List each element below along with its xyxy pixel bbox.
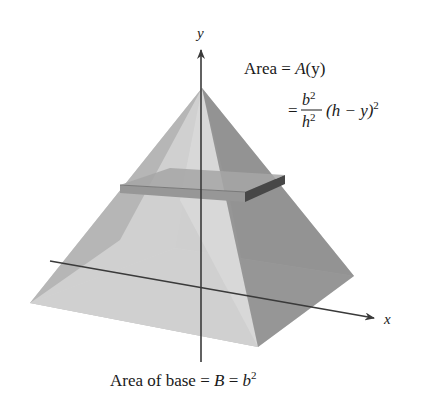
area-formula: = b2 h2 (h − y)2 <box>288 89 379 130</box>
svg-text:b2: b2 <box>302 89 316 108</box>
y-axis-label: y <box>195 25 204 41</box>
pyramid-diagram: y x Area = A(y) = b2 h2 (h − y)2 Area of… <box>0 0 424 406</box>
svg-text:h2: h2 <box>302 111 316 130</box>
svg-text:(h − y)2: (h − y)2 <box>326 99 379 120</box>
area-label-line1: Area = A(y) <box>244 59 325 78</box>
x-axis-label: x <box>383 311 391 327</box>
base-area-label: Area of base = B = b2 <box>110 369 256 390</box>
svg-text:=: = <box>288 101 298 120</box>
pyramid-volume-figure: y x Area = A(y) = b2 h2 (h − y)2 Area of… <box>0 0 424 406</box>
